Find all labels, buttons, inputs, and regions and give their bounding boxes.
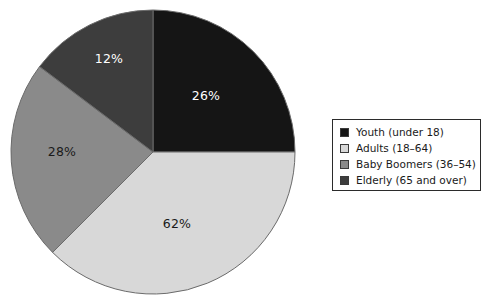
legend-item-youth[interactable]: Youth (under 18): [340, 125, 480, 140]
pie-slice[interactable]: [153, 10, 295, 152]
pie-slice-value-label: 62%: [163, 216, 191, 231]
pie-slice-value-label: 26%: [192, 88, 220, 103]
pie-chart-page: 26%62%28%12% Youth (under 18) Adults (18…: [0, 0, 494, 300]
legend-label-adults: Adults (18–64): [356, 143, 432, 154]
legend-item-elderly[interactable]: Elderly (65 and over): [340, 173, 480, 188]
pie-slice-value-label: 28%: [48, 144, 76, 159]
legend-item-adults[interactable]: Adults (18–64): [340, 141, 480, 156]
chart-legend: Youth (under 18) Adults (18–64) Baby Boo…: [332, 119, 481, 191]
legend-swatch-elderly: [340, 176, 349, 185]
legend-label-baby-boomers: Baby Boomers (36–54): [356, 159, 476, 170]
legend-swatch-adults: [340, 144, 349, 153]
legend-label-youth: Youth (under 18): [356, 127, 444, 138]
legend-item-baby-boomers[interactable]: Baby Boomers (36–54): [340, 157, 480, 172]
legend-label-elderly: Elderly (65 and over): [356, 175, 467, 186]
pie-slice-value-label: 12%: [95, 51, 123, 66]
legend-swatch-baby-boomers: [340, 160, 349, 169]
legend-swatch-youth: [340, 128, 349, 137]
